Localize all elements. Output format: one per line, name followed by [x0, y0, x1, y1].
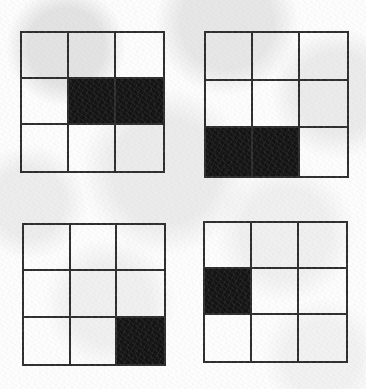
grid-figure-top-right [204, 31, 349, 178]
grid-cell-empty [116, 33, 163, 79]
grid-cell-empty [252, 315, 299, 361]
grid-cell-empty [117, 225, 164, 271]
grid-cell-empty [117, 271, 164, 317]
grid-cell-filled [69, 79, 116, 125]
grid-cell-empty [299, 223, 346, 269]
scanned-page [0, 0, 366, 389]
grid-cell-filled [116, 79, 163, 125]
grid-cell-empty [71, 318, 118, 364]
grid-cell-empty [69, 125, 116, 171]
grid-cell-empty [206, 81, 253, 129]
grid-cell-empty [22, 79, 69, 125]
grid-cell-empty [300, 128, 347, 176]
grid-cell-filled [117, 318, 164, 364]
grid-cell-filled [253, 128, 300, 176]
grid-cell-empty [24, 318, 71, 364]
grid-cell-empty [24, 271, 71, 317]
grid-cell-empty [206, 33, 253, 81]
grid-cell-empty [299, 315, 346, 361]
grid-cell-empty [253, 81, 300, 129]
grid-figure-top-left [20, 31, 165, 173]
grid-cell-empty [71, 271, 118, 317]
grid-cell-empty [71, 225, 118, 271]
grid-cell-empty [300, 33, 347, 81]
grid-cell-empty [69, 33, 116, 79]
grid-figure-bottom-left [22, 223, 166, 366]
grid-cell-filled [206, 128, 253, 176]
grid-cell-empty [24, 225, 71, 271]
grid-cell-empty [252, 269, 299, 315]
grid-cell-empty [22, 33, 69, 79]
grid-cell-empty [299, 269, 346, 315]
grid-figure-bottom-right [203, 221, 348, 363]
grid-cell-filled [205, 269, 252, 315]
grid-cell-empty [252, 223, 299, 269]
grid-cell-empty [253, 33, 300, 81]
grid-cell-empty [22, 125, 69, 171]
grid-cell-empty [116, 125, 163, 171]
grid-cell-empty [300, 81, 347, 129]
grid-cell-empty [205, 315, 252, 361]
grid-cell-empty [205, 223, 252, 269]
